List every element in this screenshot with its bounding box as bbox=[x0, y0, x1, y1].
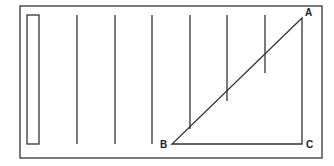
vertex-label-b: B bbox=[160, 139, 167, 150]
vertical-lines bbox=[77, 15, 265, 144]
right-triangle-abc bbox=[172, 18, 302, 144]
outer-frame bbox=[20, 6, 322, 158]
geometry-diagram: A B C bbox=[0, 0, 334, 166]
vertex-label-a: A bbox=[305, 7, 312, 18]
narrow-rectangle bbox=[27, 15, 39, 144]
vertex-label-c: C bbox=[306, 139, 313, 150]
